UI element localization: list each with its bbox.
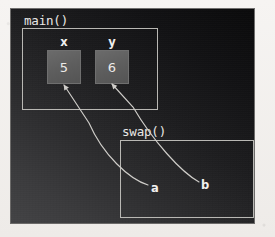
variable-y: y 6 <box>95 36 129 84</box>
slide-panel: main() x 5 y 6 swap() a b <box>11 9 254 223</box>
variable-x-name: x <box>47 36 81 49</box>
main-stack-frame <box>22 28 158 110</box>
main-frame-title: main() <box>24 13 68 28</box>
pointer-label-b: b <box>201 180 209 192</box>
variable-x-value: 5 <box>60 61 68 74</box>
diagram-canvas: main() x 5 y 6 swap() a b <box>0 0 275 237</box>
pointer-label-a: a <box>151 183 159 195</box>
swap-frame-title: swap() <box>122 124 166 139</box>
variable-y-box: 6 <box>95 50 129 84</box>
swap-stack-frame <box>120 140 254 218</box>
variable-x-box: 5 <box>47 50 81 84</box>
variable-x: x 5 <box>47 36 81 84</box>
variable-y-name: y <box>95 36 129 49</box>
variable-y-value: 6 <box>108 61 116 74</box>
